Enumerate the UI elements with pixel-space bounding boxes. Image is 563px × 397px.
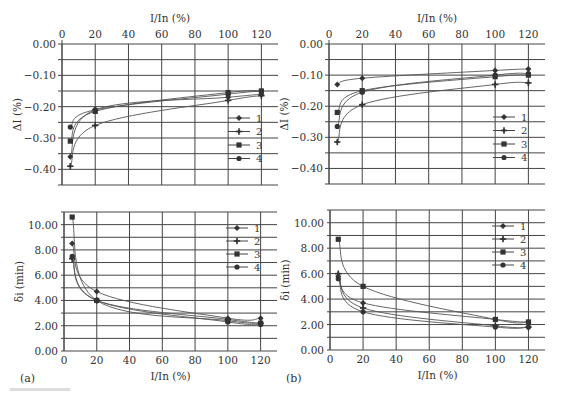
- x-tick-label: 100: [218, 28, 238, 40]
- chart-b-top: 0204060801001200.00−0.10−0.20−0.30−0.40I…: [278, 12, 545, 184]
- y-axis-label: δi (min): [13, 261, 25, 302]
- x-tick-label: 100: [218, 354, 238, 366]
- series-4-line: [337, 73, 528, 126]
- x-tick-label: 60: [423, 353, 436, 365]
- panel-label-a: (a): [20, 372, 35, 385]
- x-tick-label: 120: [518, 353, 538, 365]
- series-1-line: [72, 244, 260, 321]
- x-tick-label: 100: [485, 353, 505, 365]
- x-tick-label: 60: [422, 28, 435, 40]
- x-axis-label: I/In (%): [417, 369, 457, 381]
- y-tick-label: 6.00: [301, 268, 324, 280]
- legend: 1234: [492, 221, 526, 271]
- legend-label: 4: [256, 153, 262, 164]
- y-tick-label: 10.00: [28, 219, 58, 231]
- legend-label: 1: [254, 223, 260, 234]
- x-tick-label: 60: [156, 354, 169, 366]
- x-tick-label: 0: [327, 353, 334, 365]
- legend-label: 2: [254, 236, 260, 247]
- x-axis-label: I/In (%): [417, 12, 457, 24]
- x-tick-label: 80: [456, 353, 469, 365]
- y-axis-label: δi (min): [279, 259, 291, 300]
- y-tick-label: 8.00: [35, 244, 58, 256]
- legend-label: 4: [254, 262, 260, 273]
- x-tick-label: 0: [61, 354, 68, 366]
- y-tick-label: 0.00: [33, 38, 56, 50]
- legend-label: 1: [520, 221, 526, 232]
- x-tick-label: 20: [90, 354, 103, 366]
- legend-label: 2: [520, 234, 526, 245]
- x-tick-label: 20: [89, 28, 102, 40]
- x-tick-label: 120: [518, 28, 538, 40]
- x-tick-label: 100: [485, 28, 505, 40]
- x-tick-label: 20: [356, 28, 369, 40]
- legend-label: 1: [256, 113, 262, 124]
- legend-label: 4: [521, 152, 527, 163]
- series-3-line: [70, 90, 261, 141]
- y-tick-label: −0.10: [24, 69, 56, 81]
- legend-label: 3: [256, 140, 262, 151]
- y-tick-label: 6.00: [35, 269, 58, 281]
- series-2-markers: [335, 270, 532, 330]
- y-tick-label: 4.00: [301, 293, 324, 305]
- x-tick-label: 120: [251, 28, 271, 40]
- x-tick-label: 40: [123, 354, 136, 366]
- y-tick-label: 8.00: [301, 242, 324, 254]
- y-tick-label: −0.20: [291, 100, 323, 112]
- legend-label: 3: [520, 247, 526, 258]
- x-tick-label: 40: [389, 28, 402, 40]
- y-tick-label: −0.30: [291, 131, 323, 143]
- series-2-markers: [67, 93, 264, 170]
- chart-b-bottom: 02040608010012010.008.006.004.002.000.00…: [279, 210, 545, 381]
- x-axis-label: I/In (%): [150, 370, 190, 382]
- legend-label: 1: [521, 112, 527, 123]
- x-tick-label: 80: [188, 28, 201, 40]
- y-tick-label: 4.00: [35, 294, 58, 306]
- y-tick-label: −0.40: [291, 162, 323, 174]
- y-tick-label: 2.00: [301, 319, 324, 331]
- series-1-markers: [334, 66, 531, 88]
- legend-label: 4: [520, 260, 526, 271]
- series-1-line: [70, 94, 261, 157]
- y-tick-label: −0.40: [24, 163, 56, 175]
- x-axis-label: I/In (%): [150, 12, 190, 24]
- x-tick-label: 120: [251, 354, 271, 366]
- y-tick-label: 0.00: [35, 345, 58, 357]
- y-tick-label: 0.00: [301, 344, 324, 356]
- x-tick-label: 60: [155, 28, 168, 40]
- y-tick-label: −0.10: [291, 69, 323, 81]
- chart-a-top: 0204060801001200.00−0.10−0.20−0.30−0.40I…: [11, 12, 278, 185]
- y-axis-label: ΔI (%): [11, 98, 23, 131]
- legend-label: 2: [521, 125, 527, 136]
- series-4-markers: [68, 88, 264, 129]
- x-tick-label: 0: [326, 28, 333, 40]
- x-tick-label: 80: [188, 354, 201, 366]
- y-tick-label: −0.20: [24, 101, 56, 113]
- y-axis-label: ΔI (%): [278, 97, 290, 130]
- y-tick-label: −0.30: [24, 132, 56, 144]
- y-tick-label: 10.00: [294, 217, 324, 229]
- x-tick-label: 20: [356, 353, 369, 365]
- x-tick-label: 80: [455, 28, 468, 40]
- legend-label: 2: [256, 126, 262, 137]
- chart-a-bottom: 02040608010012010.008.006.004.002.000.00…: [13, 212, 277, 382]
- x-tick-label: 40: [122, 28, 135, 40]
- figure-canvas: 0204060801001200.00−0.10−0.20−0.30−0.40I…: [0, 0, 563, 397]
- series-4-line: [72, 256, 260, 324]
- y-tick-label: 2.00: [35, 320, 58, 332]
- panel-label-b: (b): [286, 372, 302, 385]
- x-tick-label: 0: [59, 28, 66, 40]
- legend-label: 3: [521, 139, 527, 150]
- series-3-line: [72, 217, 260, 323]
- x-tick-label: 40: [389, 353, 402, 365]
- legend-label: 3: [254, 249, 260, 260]
- legend: 1234: [226, 223, 260, 273]
- series-4-markers: [335, 71, 531, 129]
- y-tick-label: 0.00: [300, 38, 323, 50]
- caption-stub: [10, 388, 70, 391]
